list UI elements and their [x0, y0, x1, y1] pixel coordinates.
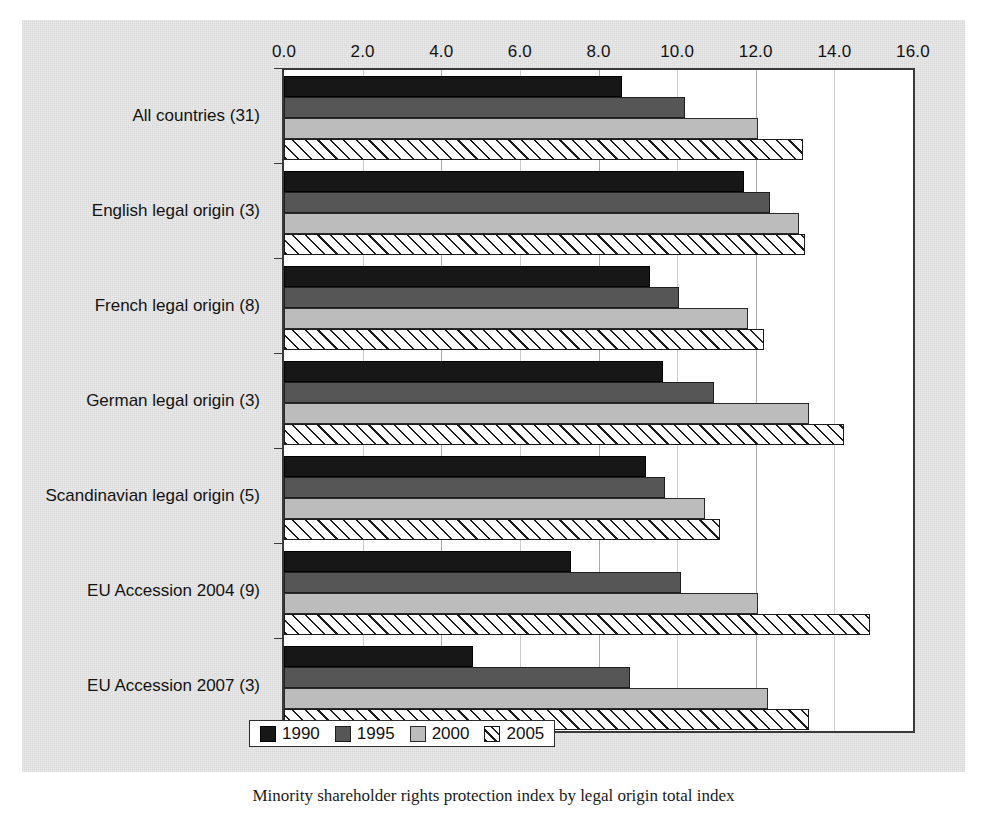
- x-tick-label: 6.0: [508, 42, 532, 62]
- x-tick-label: 4.0: [429, 42, 453, 62]
- figure-caption: Minority shareholder rights protection i…: [0, 786, 987, 816]
- chart-legend: 1990199520002005: [249, 720, 555, 747]
- x-tick-label: 2.0: [351, 42, 375, 62]
- bar-2000-4: [284, 498, 705, 519]
- bar-1990-4: [284, 456, 646, 477]
- bar-1995-1: [284, 192, 770, 213]
- bar-1995-4: [284, 477, 665, 498]
- x-tick-label: 14.0: [817, 42, 851, 62]
- category-label: German legal origin (3): [86, 391, 260, 411]
- legend-swatch-icon: [260, 726, 276, 742]
- category-tick: [274, 258, 282, 259]
- figure-panel: 0.02.04.06.08.010.012.014.016.0 All coun…: [22, 20, 965, 772]
- legend-label: 1990: [282, 725, 320, 742]
- category-tick: [274, 68, 282, 69]
- x-tick-label: 12.0: [739, 42, 773, 62]
- bar-2000-2: [284, 308, 748, 329]
- bar-2005-1: [284, 234, 805, 255]
- legend-label: 2005: [506, 725, 544, 742]
- bar-1990-5: [284, 551, 571, 572]
- bar-1990-1: [284, 171, 744, 192]
- bar-1995-0: [284, 97, 685, 118]
- bar-1995-5: [284, 572, 681, 593]
- category-label: EU Accession 2004 (9): [87, 581, 260, 601]
- legend-label: 2000: [432, 725, 470, 742]
- legend-swatch-icon: [335, 726, 351, 742]
- bar-1990-6: [284, 646, 473, 667]
- bar-2000-5: [284, 593, 758, 614]
- bar-2000-3: [284, 403, 809, 424]
- category-label: English legal origin (3): [92, 201, 260, 221]
- bar-chart: 0.02.04.06.08.010.012.014.016.0 All coun…: [22, 20, 965, 772]
- legend-label: 1995: [357, 725, 395, 742]
- bar-2000-1: [284, 213, 799, 234]
- legend-item-2000: 2000: [410, 725, 470, 742]
- x-tick-label: 10.0: [660, 42, 694, 62]
- category-label: EU Accession 2007 (3): [87, 676, 260, 696]
- x-tick-label: 8.0: [586, 42, 610, 62]
- x-tick-label: 0.0: [272, 42, 296, 62]
- category-tick: [274, 163, 282, 164]
- category-tick: [274, 448, 282, 449]
- bar-2005-3: [284, 424, 844, 445]
- bar-2005-0: [284, 139, 803, 160]
- category-label: All countries (31): [132, 106, 260, 126]
- category-label: French legal origin (8): [95, 296, 260, 316]
- legend-swatch-icon: [410, 726, 426, 742]
- legend-item-1990: 1990: [260, 725, 320, 742]
- category-tick: [274, 543, 282, 544]
- x-axis-tick-labels: 0.02.04.06.08.010.012.014.016.0: [282, 42, 915, 66]
- legend-item-1995: 1995: [335, 725, 395, 742]
- bar-2005-2: [284, 329, 764, 350]
- bars-layer: [284, 70, 913, 731]
- bar-2000-6: [284, 688, 768, 709]
- category-tick: [274, 638, 282, 639]
- bar-1995-3: [284, 382, 714, 403]
- bar-1995-6: [284, 667, 630, 688]
- x-tick-label: 16.0: [896, 42, 930, 62]
- bar-2000-0: [284, 118, 758, 139]
- bar-1990-3: [284, 361, 663, 382]
- category-label: Scandinavian legal origin (5): [45, 486, 260, 506]
- bar-2005-5: [284, 614, 870, 635]
- category-tick: [274, 353, 282, 354]
- bar-2005-4: [284, 519, 720, 540]
- bar-1990-0: [284, 76, 622, 97]
- y-axis-category-labels: All countries (31)English legal origin (…: [22, 68, 274, 733]
- bar-1995-2: [284, 287, 679, 308]
- legend-swatch-icon: [484, 726, 500, 742]
- legend-item-2005: 2005: [484, 725, 544, 742]
- bar-1990-2: [284, 266, 650, 287]
